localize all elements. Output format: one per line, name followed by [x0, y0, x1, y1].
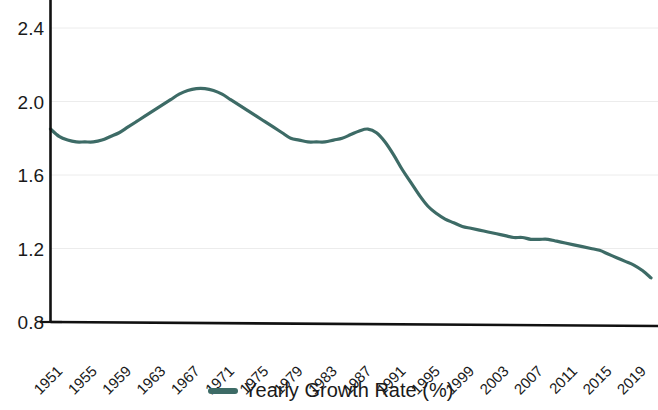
- y-tick-label-0.8: 0.8: [18, 312, 44, 333]
- x-axis-line: [51, 322, 658, 326]
- chart-container: 0.81.21.62.02.4 195119551959196319671971…: [0, 0, 658, 410]
- x-tick-label-2003: 2003: [476, 362, 512, 398]
- series-line-yearly-growth-rate: [51, 88, 652, 277]
- gridlines-group: [51, 28, 658, 249]
- x-tick-label-1955: 1955: [64, 362, 100, 398]
- axes-group: [40, 0, 658, 326]
- chart-legend: Yearly Growth Rate (%): [211, 379, 453, 401]
- legend-label-yearly-growth-rate: Yearly Growth Rate (%): [244, 379, 453, 401]
- x-tick-label-1959: 1959: [99, 362, 135, 398]
- y-tick-label-2.0: 2.0: [18, 92, 44, 113]
- y-tick-label-2.4: 2.4: [18, 18, 45, 39]
- y-tick-label-1.6: 1.6: [18, 165, 44, 186]
- y-axis-tick-labels: 0.81.21.62.02.4: [18, 18, 45, 333]
- x-tick-label-1967: 1967: [167, 362, 203, 398]
- y-tick-label-1.2: 1.2: [18, 239, 44, 260]
- x-tick-label-2011: 2011: [545, 362, 580, 397]
- data-series-group: [51, 88, 652, 277]
- x-tick-label-1963: 1963: [133, 362, 169, 398]
- x-tick-label-2019: 2019: [613, 362, 649, 398]
- x-tick-label-2015: 2015: [579, 362, 615, 398]
- x-tick-label-1951: 1951: [30, 362, 66, 398]
- x-tick-label-2007: 2007: [510, 362, 546, 398]
- line-chart: 0.81.21.62.02.4 195119551959196319671971…: [0, 0, 658, 410]
